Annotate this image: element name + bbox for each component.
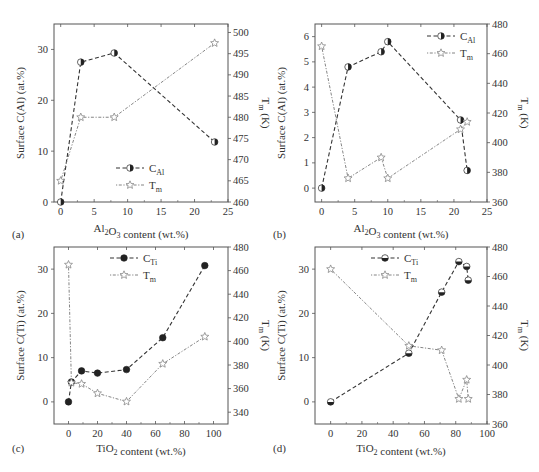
y2-tick-label: 380 (492, 167, 508, 178)
star-marker-icon (211, 39, 219, 47)
star-marker-icon (384, 174, 392, 182)
x-tick-label: 10 (383, 206, 394, 217)
y-axis-label: Surface C(Al) (at.%) (14, 67, 27, 159)
panel-label: (d) (273, 442, 286, 455)
y-tick-label: 20 (299, 308, 310, 319)
star-marker-icon (77, 113, 85, 121)
y2-axis-label: Tm (K) (516, 98, 531, 129)
y2-tick-label: 440 (492, 301, 508, 312)
y-tick-label: 5 (304, 56, 309, 67)
filled-circle-marker-icon (65, 399, 72, 406)
star-marker-icon (437, 49, 445, 57)
legend-label: CTi (143, 252, 158, 267)
legend-label: CAl (149, 162, 165, 177)
chart-panel-b: 05101520250123456360380400420440460480Al… (273, 19, 531, 242)
star-marker-icon (381, 271, 389, 279)
filled-circle-marker-icon (123, 366, 130, 373)
y2-tick-label: 480 (233, 112, 249, 123)
plot-frame (54, 24, 228, 202)
y-tick-label: 10 (299, 352, 310, 363)
y2-tick-label: 400 (233, 336, 249, 347)
star-marker-icon (463, 118, 471, 126)
x-tick-label: 60 (419, 428, 430, 439)
y2-tick-label: 400 (492, 360, 508, 371)
panel-label: (c) (12, 442, 25, 455)
panel-label: (a) (12, 228, 25, 241)
y2-tick-label: 460 (492, 48, 508, 59)
x-tick-label: 5 (352, 206, 357, 217)
star-marker-icon (455, 395, 463, 403)
y-tick-label: 30 (38, 44, 49, 55)
star-marker-icon (65, 261, 73, 269)
y2-tick-label: 400 (492, 137, 508, 148)
y2-tick-label: 340 (233, 407, 249, 418)
y-tick-label: 0 (304, 396, 309, 407)
y-tick-label: 20 (38, 308, 49, 319)
y2-tick-label: 420 (492, 108, 508, 119)
x-axis-label: TiO2 content (wt.%) (356, 442, 446, 458)
y2-tick-label: 420 (492, 330, 508, 341)
y2-tick-label: 440 (233, 289, 249, 300)
y2-tick-label: 485 (233, 91, 249, 102)
legend-label: CAl (460, 30, 476, 45)
y-tick-label: 30 (38, 264, 49, 275)
y2-tick-label: 480 (233, 242, 249, 253)
panel-label: (b) (273, 228, 286, 241)
x-axis-label: Al2O3 content (wt.%) (353, 222, 448, 241)
y2-axis-label: Tm (K) (516, 320, 531, 351)
y2-tick-label: 465 (233, 175, 249, 186)
chart-panel-d: 0204060801000102030360380400420440460480… (273, 242, 531, 459)
filled-circle-marker-icon (78, 368, 85, 375)
y2-tick-label: 360 (233, 383, 249, 394)
series-line-c-al (322, 42, 468, 188)
star-marker-icon (126, 181, 134, 189)
y2-tick-label: 360 (492, 419, 508, 430)
legend-label: Tm (460, 47, 474, 62)
y-tick-label: 0 (304, 183, 309, 194)
y2-tick-label: 475 (233, 133, 249, 144)
series-line-t-m (69, 265, 205, 402)
x-tick-label: 60 (150, 428, 161, 439)
filled-circle-marker-icon (202, 262, 209, 269)
x-tick-label: 0 (58, 206, 63, 217)
x-axis-label: TiO2 content (wt.%) (96, 442, 186, 458)
star-marker-icon (318, 42, 326, 50)
x-tick-label: 5 (92, 206, 97, 217)
y2-axis-label: Tm (K) (257, 98, 272, 129)
star-marker-icon (57, 177, 65, 185)
chart-panel-c: 0204060801000102030340360380400420440460… (12, 242, 272, 459)
y-tick-label: 30 (299, 264, 310, 275)
x-tick-label: 25 (223, 206, 234, 217)
y2-tick-label: 470 (233, 154, 249, 165)
x-tick-label: 20 (92, 428, 103, 439)
y-tick-label: 6 (304, 31, 309, 42)
y2-tick-label: 420 (233, 312, 249, 323)
x-tick-label: 20 (189, 206, 200, 217)
y2-tick-label: 380 (492, 389, 508, 400)
y-tick-label: 3 (304, 107, 309, 118)
x-tick-label: 25 (482, 206, 493, 217)
figure: 0510152025010203046046547047548048549049… (0, 0, 539, 472)
x-tick-label: 0 (319, 206, 324, 217)
filled-circle-marker-icon (94, 370, 101, 377)
y2-tick-label: 440 (492, 78, 508, 89)
star-marker-icon (463, 376, 471, 384)
star-marker-icon (464, 395, 472, 403)
y2-tick-label: 380 (233, 360, 249, 371)
y-axis-label: Surface C(Al) (at.%) (275, 67, 288, 159)
x-tick-label: 20 (449, 206, 460, 217)
y-tick-label: 20 (38, 95, 49, 106)
y-tick-label: 0 (43, 197, 48, 208)
star-marker-icon (110, 113, 118, 121)
x-tick-label: 80 (450, 428, 461, 439)
y-tick-label: 10 (38, 146, 49, 157)
x-tick-label: 100 (479, 428, 495, 439)
y-axis-label: Surface C(Ti) (at.%) (14, 290, 27, 381)
y-axis-label: Surface C(Ti) (at.%) (275, 290, 288, 381)
legend-label: CTi (404, 252, 419, 267)
star-marker-icon (438, 346, 446, 354)
star-marker-icon (78, 380, 86, 388)
x-tick-label: 0 (328, 428, 333, 439)
x-axis-label: Al2O3 content (wt.%) (93, 222, 188, 241)
x-tick-label: 15 (156, 206, 167, 217)
